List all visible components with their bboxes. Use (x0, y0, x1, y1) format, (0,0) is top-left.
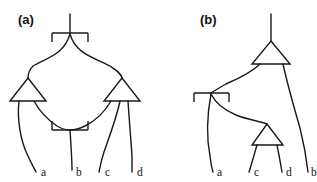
wire-b-cap-right-arm (211, 94, 267, 124)
triangle-node-top-b (252, 41, 290, 64)
wire-b-bottom-out-d (277, 145, 282, 172)
wire-right-out-d (128, 101, 132, 172)
bottom-cup-a (52, 121, 88, 170)
wire-label-b-a: a (217, 166, 222, 178)
wire-b-top-out-left (211, 64, 260, 93)
panel-a (10, 14, 140, 172)
wire-cap-left-arm (28, 34, 70, 78)
wire-label-b-b: b (311, 166, 317, 178)
wire-left-out-a (18, 101, 36, 172)
wire-label-b-d: d (286, 166, 292, 178)
panel-b (194, 14, 308, 172)
wire-label-a-a: a (41, 166, 46, 178)
wire-label-a-c: c (105, 166, 110, 178)
wire-b-cap-left-arm (208, 94, 213, 172)
wire-right-out-to-cup (70, 101, 111, 130)
wire-label-a-b: b (76, 166, 82, 178)
triangle-node-left-a (10, 78, 46, 101)
wire-right-out-c (99, 101, 120, 172)
bottom-cup-stem (70, 130, 72, 170)
panel-label-b: (b) (200, 12, 217, 27)
string-diagram-figure: (a) (b) a b c d a c d b (0, 0, 317, 182)
wire-cap-right-arm (70, 34, 122, 78)
wire-label-a-d: d (137, 166, 143, 178)
top-cap-a (52, 14, 88, 42)
wire-b-top-out-right (283, 64, 308, 172)
triangle-node-bottom-b (252, 124, 283, 145)
panel-label-a: (a) (18, 12, 34, 27)
diagram-canvas: (a) (b) a b c d a c d b (0, 0, 317, 182)
wire-label-b-c: c (254, 166, 259, 178)
triangle-node-right-a (104, 78, 140, 101)
